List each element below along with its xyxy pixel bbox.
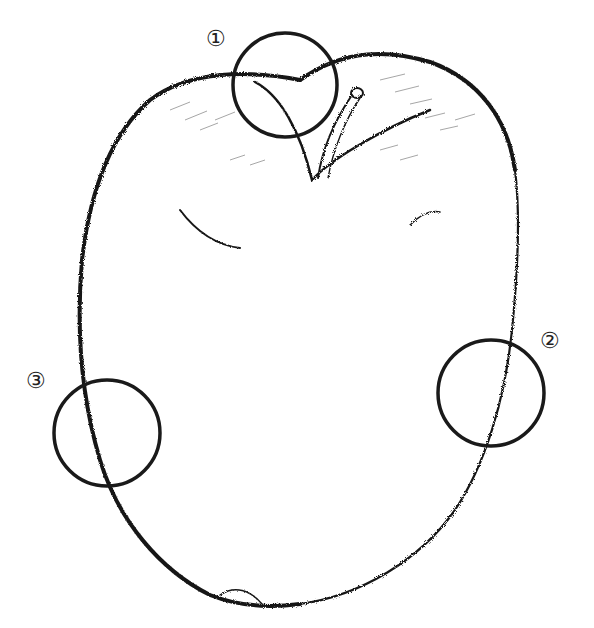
apple-sketch xyxy=(0,0,594,628)
marker-circles xyxy=(54,33,544,486)
marker-label-1: ① xyxy=(206,28,226,50)
marker-circle-3 xyxy=(54,380,160,486)
marker-label-3: ③ xyxy=(26,370,46,392)
marker-circle-1 xyxy=(233,33,337,137)
marker-label-2: ② xyxy=(540,330,560,352)
